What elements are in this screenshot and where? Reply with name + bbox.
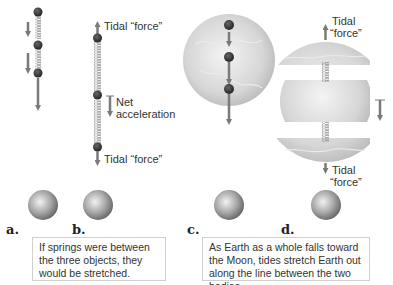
tidal-force-top-label: Tidal “force” (104, 20, 162, 32)
moon-icon-d (311, 190, 341, 220)
force-label-bottom: “force” (330, 176, 362, 188)
ball-icon (224, 20, 234, 30)
panel-c-diagram (183, 14, 275, 122)
net-label: Net (116, 96, 133, 108)
panel-label-b: b. (72, 222, 86, 237)
tidal-force-bottom-label: Tidal “force” (104, 153, 162, 165)
panel-b-diagram (93, 24, 114, 163)
spring-icon (322, 62, 329, 82)
ball-icon (34, 41, 43, 50)
ball-icon (93, 143, 102, 152)
tidal-label-top: Tidal (332, 15, 355, 27)
panel-label-c: c. (187, 222, 199, 237)
panel-label-a: a. (6, 222, 19, 237)
moon-icon-a (28, 190, 58, 220)
force-label-top: “force” (330, 27, 362, 39)
caption-right: As Earth as a whole falls toward the Moo… (202, 237, 370, 281)
panel-label-d: d. (281, 222, 295, 237)
panel-d-diagram (263, 27, 389, 171)
spring-icon (94, 100, 101, 146)
ball-icon (34, 69, 43, 78)
acceleration-label: acceleration (116, 108, 175, 120)
spring-icon (322, 122, 329, 142)
ball-icon (224, 52, 234, 62)
moon-icon-b (83, 190, 113, 220)
ball-icon (93, 34, 102, 43)
panel-a-diagram (28, 8, 43, 109)
ball-icon (224, 84, 234, 94)
ball-icon (34, 8, 43, 17)
ball-icon (93, 91, 102, 100)
moon-icon-c (214, 190, 244, 220)
spring-icon (94, 40, 101, 91)
tidal-label-bottom: Tidal (332, 164, 355, 176)
spring-icon (35, 13, 41, 39)
caption-left: If springs were between the three object… (32, 237, 166, 281)
